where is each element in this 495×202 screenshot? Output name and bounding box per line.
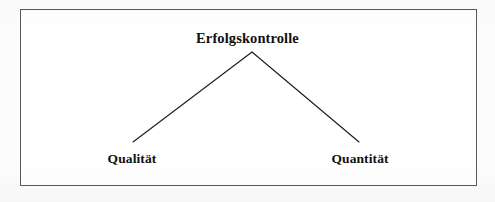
node-erfolgskontrolle: Erfolgskontrolle [0,30,495,46]
diagram-canvas: Erfolgskontrolle Qualität Quantität [0,0,495,202]
node-qualitaet: Qualität [62,151,202,167]
node-quantitaet: Quantität [290,151,430,167]
